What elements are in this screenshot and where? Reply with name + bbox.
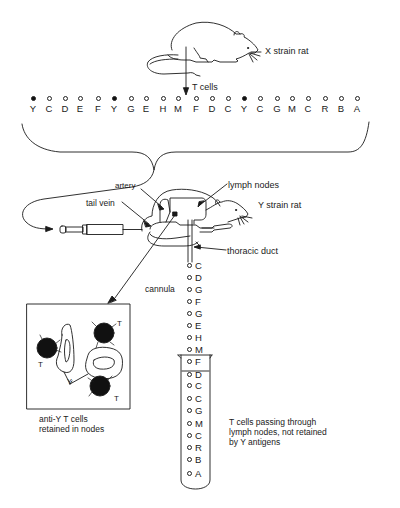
cell-letter: M [285,103,299,114]
cannula-cell: D [187,272,202,283]
cell-letter: C [195,393,202,404]
open-cell-icon [187,287,192,292]
cell-letter: R [195,442,202,453]
cannula-cell: F [187,356,201,367]
cell-letter: G [195,308,202,319]
top-row-cell: M [171,96,185,114]
cannula-cell: M [187,344,203,355]
open-cell-icon [187,383,192,388]
passing-caption-line3: by Y antigens [229,437,327,447]
cell-letter: C [221,103,235,114]
open-cell-icon [176,96,181,101]
cannula-cell: D [187,369,202,380]
cell-letter: G [270,103,284,114]
top-row-cell: Y [107,96,121,114]
cell-letter: Y [107,103,121,114]
cell-letter: M [171,103,185,114]
open-cell-icon [306,96,311,101]
top-row-cell: C [221,96,235,114]
open-cell-icon [187,433,192,438]
top-row-cell: Y [26,96,40,114]
open-cell-icon [187,299,192,304]
open-cell-icon [290,96,295,101]
open-cell-icon [187,263,192,268]
antigen-y-label: Y [67,377,72,387]
open-cell-icon [96,96,101,101]
cell-letter: H [195,332,202,343]
t-cells-retained [37,323,114,396]
open-cell-icon [187,471,192,476]
cell-letter: R [318,103,332,114]
open-cell-icon [355,96,360,101]
open-cell-icon [187,372,192,377]
cell-letter: D [205,103,219,114]
filled-cell-icon [112,96,117,101]
open-cell-icon [187,335,192,340]
open-cell-icon [339,96,344,101]
cell-letter: F [195,356,201,367]
top-row-cell: Y [237,96,251,114]
passing-caption-line1: T cells passing through [229,417,327,427]
cell-letter: E [139,103,153,114]
cell-letter: E [195,320,201,331]
top-row-cell: H [156,96,170,114]
cell-letter: M [195,344,203,355]
cannula-cell: E [187,320,201,331]
cell-letter: C [42,103,56,114]
cell-letter: C [253,103,267,114]
open-cell-icon [187,275,192,280]
t-cells-label: T cells [192,82,218,92]
open-cell-icon [144,96,149,101]
top-row-cell: E [73,96,87,114]
brace [22,122,369,170]
top-row-cell: G [270,96,284,114]
cell-letter: F [91,103,105,114]
open-cell-icon [187,445,192,450]
top-row-cell: D [205,96,219,114]
thoracic-duct-label: thoracic duct [227,246,278,256]
cannula-cell: C [187,260,202,271]
cell-letter: D [195,272,202,283]
top-row-cell: M [285,96,299,114]
cell-letter: C [195,380,202,391]
open-cell-icon [194,96,199,101]
cannula-cell: A [187,468,201,479]
passing-caption: T cells passing through lymph nodes, not… [229,417,327,447]
cannula-label: cannula [145,284,175,294]
cell-letter: A [350,103,364,114]
filled-cell-icon [242,96,247,101]
open-cell-icon [187,323,192,328]
tail-vein-label: tail vein [86,198,115,208]
cannula-cell: H [187,332,202,343]
open-cell-icon [275,96,280,101]
open-cell-icon [187,347,192,352]
open-cell-icon [187,408,192,413]
cell-letter: Y [26,103,40,114]
cell-letter: C [195,430,202,441]
cell-letter: Y [237,103,251,114]
cell-letter: H [156,103,170,114]
open-cell-icon [226,96,231,101]
open-cell-icon [161,96,166,101]
retained-caption-line1: anti-Y T cells [39,414,104,424]
cell-letter: E [73,103,87,114]
top-row-cell: B [334,96,348,114]
cell-letter: B [334,103,348,114]
cannula-cell: R [187,442,202,453]
top-row-cell: E [139,96,153,114]
open-cell-icon [78,96,83,101]
cell-letter: G [124,103,138,114]
cell-letter: G [195,405,202,416]
syringe [60,225,142,235]
open-cell-icon [323,96,328,101]
top-row-cell: C [301,96,315,114]
open-cell-icon [47,96,52,101]
top-row-cell: A [350,96,364,114]
y-strain-rat-label: Y strain rat [258,200,301,210]
cell-letter: A [195,468,201,479]
retained-caption: anti-Y T cells retained in nodes [39,414,104,434]
open-cell-icon [210,96,215,101]
cell-letter: M [195,418,203,429]
cell-letter: D [58,103,72,114]
cannula-cell: C [187,393,202,404]
